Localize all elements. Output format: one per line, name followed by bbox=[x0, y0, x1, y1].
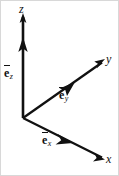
basis-vector-z-label: ez bbox=[4, 67, 13, 81]
basis-vector-z-symbol: e bbox=[4, 67, 9, 79]
basis-vector-x-subscript: x bbox=[48, 139, 52, 148]
z-axis-label: z bbox=[19, 3, 24, 15]
basis-vector-y-label: ey bbox=[59, 89, 68, 103]
basis-vector-x-label: ex bbox=[42, 134, 51, 148]
y-axis-label: y bbox=[106, 53, 111, 65]
basis-vector-y-subscript: y bbox=[65, 94, 69, 103]
basis-vector-y-symbol: e bbox=[59, 89, 64, 101]
basis-vector-x-symbol: e bbox=[42, 134, 47, 146]
basis-vector-z-subscript: z bbox=[10, 72, 13, 81]
coordinate-axes-figure: z y x ez ey ex bbox=[0, 0, 119, 176]
x-axis-label: x bbox=[106, 153, 111, 165]
